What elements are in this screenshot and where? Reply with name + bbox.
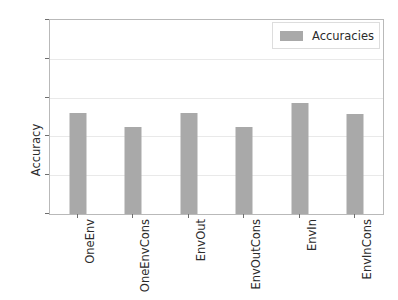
legend-swatch-accuracies <box>280 31 303 41</box>
x-axis-tick-label: EnvInCons <box>360 219 374 279</box>
bar <box>69 113 86 214</box>
x-axis-tick-label: EnvIn <box>305 219 319 251</box>
x-axis-tick-mark <box>299 214 300 218</box>
legend-label-accuracies: Accuracies <box>312 29 374 43</box>
y-axis-label: Accuracy <box>29 124 43 177</box>
bar <box>347 114 364 214</box>
legend: Accuracies <box>272 22 380 49</box>
gridline <box>50 59 383 60</box>
x-axis-tick-mark <box>132 214 133 218</box>
gridline <box>50 98 383 99</box>
x-axis-tick-mark <box>243 214 244 218</box>
x-axis-tick-label: OneEnvCons <box>138 219 152 292</box>
gridline <box>50 136 383 137</box>
bar <box>236 127 253 214</box>
bar <box>125 127 142 214</box>
gridline <box>50 175 383 176</box>
bar-chart-figure: Accuracy 0.00.20.40.60.81.0 OneEnvOneEnv… <box>0 0 398 300</box>
x-axis-tick-label: EnvOut <box>194 219 208 261</box>
x-axis-tick-mark <box>188 214 189 218</box>
x-axis-tick-mark <box>354 214 355 218</box>
x-axis-tick-label: EnvOutCons <box>249 219 263 290</box>
x-axis-tick-mark <box>77 214 78 218</box>
bar <box>180 113 197 214</box>
x-axis-tick-label: OneEnv <box>83 219 97 264</box>
bar <box>291 103 308 214</box>
